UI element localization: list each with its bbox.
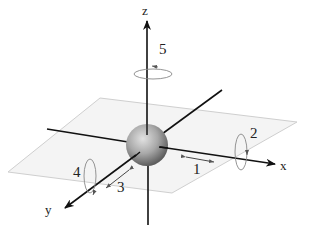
y-axis-label: y [45,203,52,216]
rotation-5-icon [134,69,172,79]
z-axis-label: z [142,4,148,17]
motion-label-4: 4 [73,165,81,180]
motion-label-5: 5 [159,42,167,57]
x-axis-label: x [280,159,287,172]
motion-label-1: 1 [193,162,201,177]
motion-label-2: 2 [250,126,258,141]
motion-label-3: 3 [117,180,125,195]
